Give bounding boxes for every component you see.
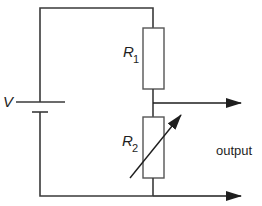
resistor-r2	[130, 115, 181, 196]
wire-middle	[153, 89, 241, 117]
r1-subscript: 1	[133, 53, 139, 65]
r2-subscript: 2	[132, 142, 138, 154]
battery-label: V	[3, 93, 15, 110]
output-label: output	[216, 143, 253, 158]
battery-cell	[16, 102, 65, 112]
wire-bottom	[40, 112, 241, 196]
circuit-diagram: V R 1 R 2 output	[0, 0, 262, 206]
resistor-r1	[143, 28, 164, 89]
